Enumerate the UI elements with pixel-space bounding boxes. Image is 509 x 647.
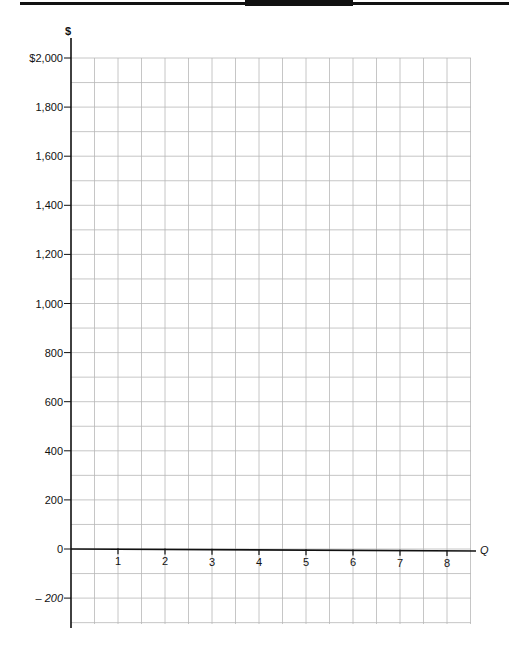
y-tick-label: $2,000 <box>29 52 63 64</box>
y-tick-label: 0 <box>57 543 63 555</box>
x-tick-label: 7 <box>397 557 403 569</box>
x-axis-label: Q <box>480 544 489 556</box>
x-tick-label: 5 <box>303 556 309 568</box>
y-tick-label: 400 <box>45 445 63 457</box>
x-tick-label: 6 <box>350 556 356 568</box>
x-tick-label: 2 <box>162 555 168 567</box>
y-tick-label: – 200 <box>34 592 63 604</box>
y-tick-label: 1,400 <box>35 199 63 211</box>
y-tick-label: 600 <box>45 396 63 408</box>
blank-graph-grid: $Q$2,0001,8001,6001,4001,2001,0008006004… <box>0 0 509 647</box>
y-tick-label: 1,800 <box>35 101 63 113</box>
y-tick-label: 200 <box>45 494 63 506</box>
x-tick-label: 3 <box>209 556 215 568</box>
x-tick-label: 8 <box>444 557 450 569</box>
x-tick-label: 1 <box>115 555 121 567</box>
y-tick-label: 800 <box>45 347 63 359</box>
x-tick-label: 4 <box>256 556 262 568</box>
y-tick-label: 1,000 <box>35 298 63 310</box>
y-axis-label: $ <box>65 25 71 37</box>
y-tick-label: 1,200 <box>35 248 63 260</box>
y-tick-label: 1,600 <box>35 150 63 162</box>
